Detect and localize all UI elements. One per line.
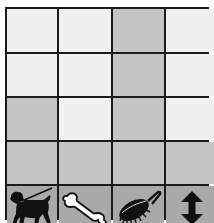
cell-r1-c1: [7, 9, 57, 52]
cell-r1-c3: [113, 9, 164, 52]
pictograph-chart: [5, 7, 209, 220]
cell-r1-c4: [166, 9, 214, 52]
dog-on-leash-icon: [8, 187, 56, 223]
brush-icon: [116, 189, 162, 223]
cell-r2-c4: [166, 54, 214, 96]
cell-r3-c2: [59, 98, 111, 140]
cell-r4-c3: [113, 142, 164, 184]
cell-r2-c1: [7, 54, 57, 96]
category-bone: [59, 186, 111, 223]
cell-r4-c2: [59, 142, 111, 184]
cell-r2-c2: [59, 54, 111, 96]
cell-r4-c4: [166, 142, 214, 184]
cell-r2-c3: [113, 54, 164, 96]
bone-icon: [62, 191, 108, 223]
cell-r3-c4: [166, 98, 214, 140]
cell-r1-c2: [59, 9, 111, 52]
cell-r3-c3: [113, 98, 164, 140]
category-brush: [113, 186, 164, 223]
cell-r4-c1: [7, 142, 57, 184]
category-dog-walk: [7, 186, 57, 223]
category-up-down-arrow: [166, 186, 214, 223]
cell-r3-c1: [7, 98, 57, 140]
up-down-arrow-icon: [181, 191, 203, 223]
